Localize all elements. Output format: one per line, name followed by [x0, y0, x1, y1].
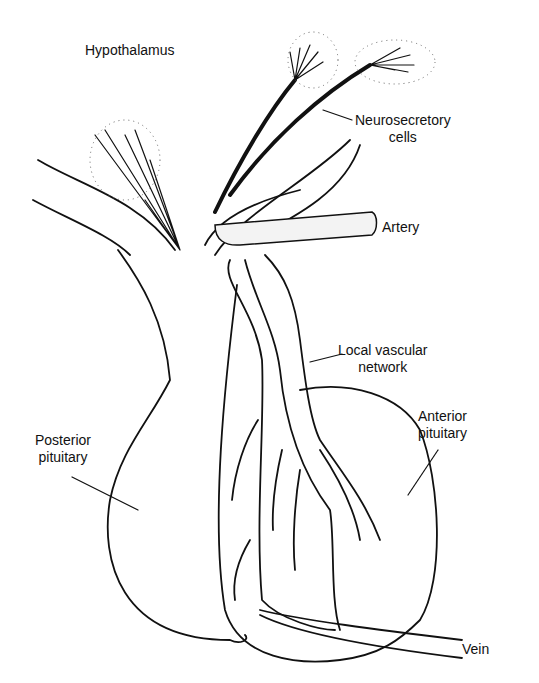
- portal-vessel-1: [228, 260, 335, 630]
- label-neurosecretory-cells: Neurosecretory cells: [355, 112, 451, 146]
- portal-branch-2: [273, 450, 282, 530]
- label-vein: Vein: [462, 641, 489, 658]
- portal-branch-1: [232, 420, 258, 500]
- portal-branch-5: [234, 540, 250, 600]
- label-posterior-line2: pituitary: [35, 449, 91, 466]
- label-anterior-line1: Anterior: [418, 408, 467, 425]
- portal-vessel-2: [245, 260, 340, 630]
- label-neurosecretory-line2: cells: [355, 129, 451, 146]
- label-anterior-pituitary: Anterior pituitary: [418, 408, 467, 442]
- label-neurosecretory-line1: Neurosecretory: [355, 112, 451, 129]
- posterior-pituitary-outline: [108, 250, 247, 642]
- label-artery: Artery: [382, 219, 419, 236]
- label-local-vascular-line2: network: [338, 359, 428, 376]
- label-local-vascular-line1: Local vascular: [338, 342, 428, 359]
- vein-vessel-top: [260, 610, 462, 640]
- pituitary-diagram: Hypothalamus Neurosecretory cells Artery…: [0, 0, 539, 683]
- portal-branch-4: [320, 450, 360, 540]
- stalk-outline-left-lower: [33, 200, 130, 255]
- terminals-left: [90, 120, 180, 250]
- label-posterior-pituitary: Posterior pituitary: [35, 432, 91, 466]
- diagram-drawing: [0, 0, 539, 683]
- label-anterior-line2: pituitary: [418, 425, 467, 442]
- label-posterior-line1: Posterior: [35, 432, 91, 449]
- leader-posterior: [72, 477, 138, 510]
- label-hypothalamus: Hypothalamus: [85, 42, 175, 59]
- label-local-vascular-network: Local vascular network: [338, 342, 428, 376]
- terminals-top: [288, 32, 435, 88]
- portal-vessel-3: [265, 255, 380, 540]
- portal-branch-3: [294, 470, 300, 570]
- artery-vessel: [215, 212, 377, 245]
- leader-neurosecretory: [323, 110, 352, 120]
